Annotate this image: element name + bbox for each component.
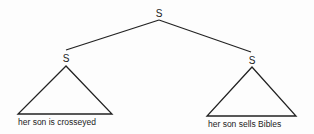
- left-node-label: S: [63, 53, 70, 64]
- branch-left: [66, 20, 159, 50]
- branch-right: [159, 20, 251, 52]
- left-yield-text: her son is crosseyed: [18, 117, 96, 127]
- root-node-label: S: [156, 8, 163, 19]
- left-triangle: [18, 66, 112, 114]
- tree-svg: S S her son is crosseyed S her son sells…: [0, 0, 314, 134]
- right-triangle: [207, 67, 296, 116]
- right-node-label: S: [249, 55, 256, 66]
- right-yield-text: her son sells Bibles: [208, 119, 281, 129]
- syntax-tree-diagram: S S her son is crosseyed S her son sells…: [0, 0, 314, 134]
